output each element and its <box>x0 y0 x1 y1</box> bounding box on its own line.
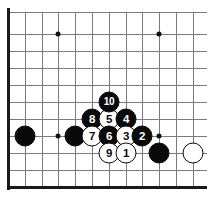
stone-move-1[interactable]: 1 <box>116 143 137 164</box>
grid-line-vertical-10 <box>176 12 177 187</box>
stone-move-number: 4 <box>123 113 129 125</box>
stone-move-number: 1 <box>123 147 129 159</box>
grid-line-horizontal-0 <box>8 12 207 13</box>
stone-move-number: 6 <box>106 130 112 142</box>
grid-line-vertical-8 <box>142 12 143 187</box>
stone-move-number: 8 <box>89 113 95 125</box>
grid-line-horizontal-4 <box>8 85 207 86</box>
diagram-caption <box>6 193 86 202</box>
stone-move-number: 9 <box>106 147 112 159</box>
grid-line-vertical-5 <box>92 12 93 187</box>
grid-line-vertical-3 <box>58 12 59 187</box>
star-point-upper-left <box>56 32 61 37</box>
star-point-upper-right <box>157 32 162 37</box>
stone-move-2[interactable]: 2 <box>132 126 153 147</box>
grid-line-horizontal-9 <box>8 170 207 171</box>
grid-line-horizontal-2 <box>8 51 207 52</box>
stone-move-number: 5 <box>106 113 112 125</box>
grid-line-horizontal-3 <box>8 68 207 69</box>
stone-move-number: 2 <box>139 130 145 142</box>
board-edge-left <box>7 8 10 190</box>
grid-line-horizontal-1 <box>8 34 207 35</box>
grid-line-vertical-1 <box>25 12 26 187</box>
board-edge-bottom <box>7 186 207 189</box>
go-diagram-root: 85410763291 <box>0 0 207 204</box>
go-board[interactable]: 85410763291 <box>0 0 207 195</box>
stone-move-number: 10 <box>104 97 114 107</box>
star-point-lower-right <box>157 134 162 139</box>
grid-line-vertical-4 <box>75 12 76 187</box>
stone-black-c[interactable] <box>149 143 170 164</box>
stone-move-number: 7 <box>89 130 95 142</box>
stone-move-number: 3 <box>123 130 129 142</box>
star-point-lower-left <box>56 134 61 139</box>
stone-black-a[interactable] <box>15 126 36 147</box>
stone-move-10[interactable]: 10 <box>99 92 120 113</box>
stone-white-a[interactable] <box>183 143 204 164</box>
grid-line-vertical-2 <box>42 12 43 187</box>
